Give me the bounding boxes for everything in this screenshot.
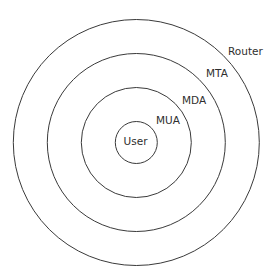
label-mua: MUA xyxy=(156,114,181,126)
label-mta: MTA xyxy=(206,67,229,79)
label-router: Router xyxy=(228,45,263,57)
concentric-layers-diagram: User MUA MDA MTA Router xyxy=(0,0,273,279)
label-user: User xyxy=(124,135,149,147)
label-mda: MDA xyxy=(182,94,207,106)
